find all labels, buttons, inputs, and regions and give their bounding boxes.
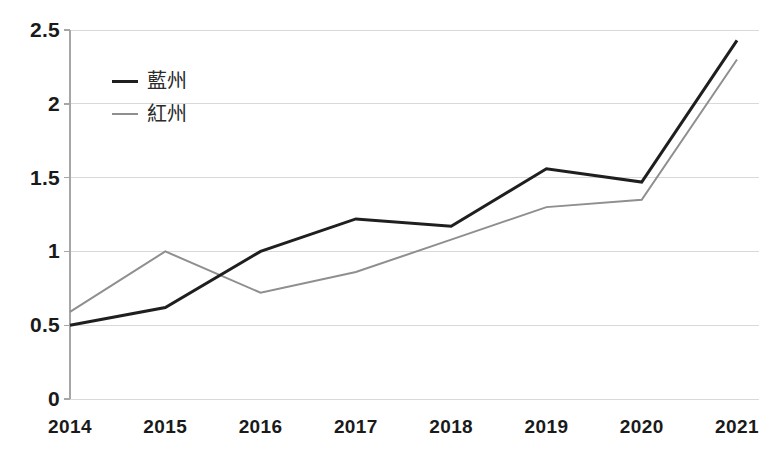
chart-legend: 藍州 紅州: [112, 68, 187, 127]
x-tick-label: 2015: [120, 417, 210, 436]
x-tick-label: 2020: [597, 417, 687, 436]
legend-item-label: 紅州: [147, 104, 187, 124]
legend-line-swatch-icon: [112, 113, 138, 115]
x-tick-label: 2016: [216, 417, 306, 436]
y-tick-label: 2.5: [14, 19, 60, 40]
y-tick-label: 1: [14, 240, 60, 261]
y-tick-label: 2: [14, 93, 60, 114]
legend-item-label: 藍州: [147, 71, 187, 91]
legend-line-swatch-icon: [112, 80, 138, 83]
legend-item-blue-state[interactable]: 藍州: [112, 68, 187, 94]
x-tick-label: 2019: [501, 417, 591, 436]
x-tick-label: 2014: [25, 417, 115, 436]
x-tick-label: 2021: [692, 417, 765, 436]
x-tick-label: 2017: [311, 417, 401, 436]
legend-item-red-state[interactable]: 紅州: [112, 101, 187, 127]
y-axis-line: [64, 30, 70, 399]
line-chart: 00.511.522.5 201420152016201720182019202…: [0, 0, 765, 450]
y-tick-label: 0: [14, 388, 60, 409]
y-tick-label: 1.5: [14, 167, 60, 188]
x-tick-label: 2018: [406, 417, 496, 436]
y-tick-label: 0.5: [14, 314, 60, 335]
